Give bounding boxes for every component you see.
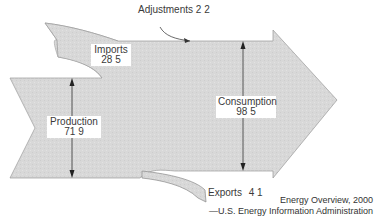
adjustments-label: Adjustments 2 2 <box>138 5 204 15</box>
production-label: Production 71 9 <box>47 116 101 138</box>
production-value: 71 9 <box>49 127 99 137</box>
imports-value: 28 5 <box>93 55 129 65</box>
flow-diagram <box>0 0 379 222</box>
exports-flow-shape <box>142 171 206 202</box>
caption: Energy Overview, 2000 —U.S. Energy Infor… <box>209 195 373 217</box>
consumption-label: Consumption 98 5 <box>216 96 276 118</box>
imports-label: Imports 28 5 <box>91 44 131 66</box>
caption-source: —U.S. Energy Information Administration <box>209 206 373 217</box>
main-flow-shape <box>10 23 337 178</box>
caption-title: Energy Overview, 2000 <box>209 195 373 206</box>
consumption-value: 98 5 <box>218 107 274 117</box>
adjustments-value: 2 2 <box>196 4 210 15</box>
adjustments-name: Adjustments <box>138 4 193 15</box>
